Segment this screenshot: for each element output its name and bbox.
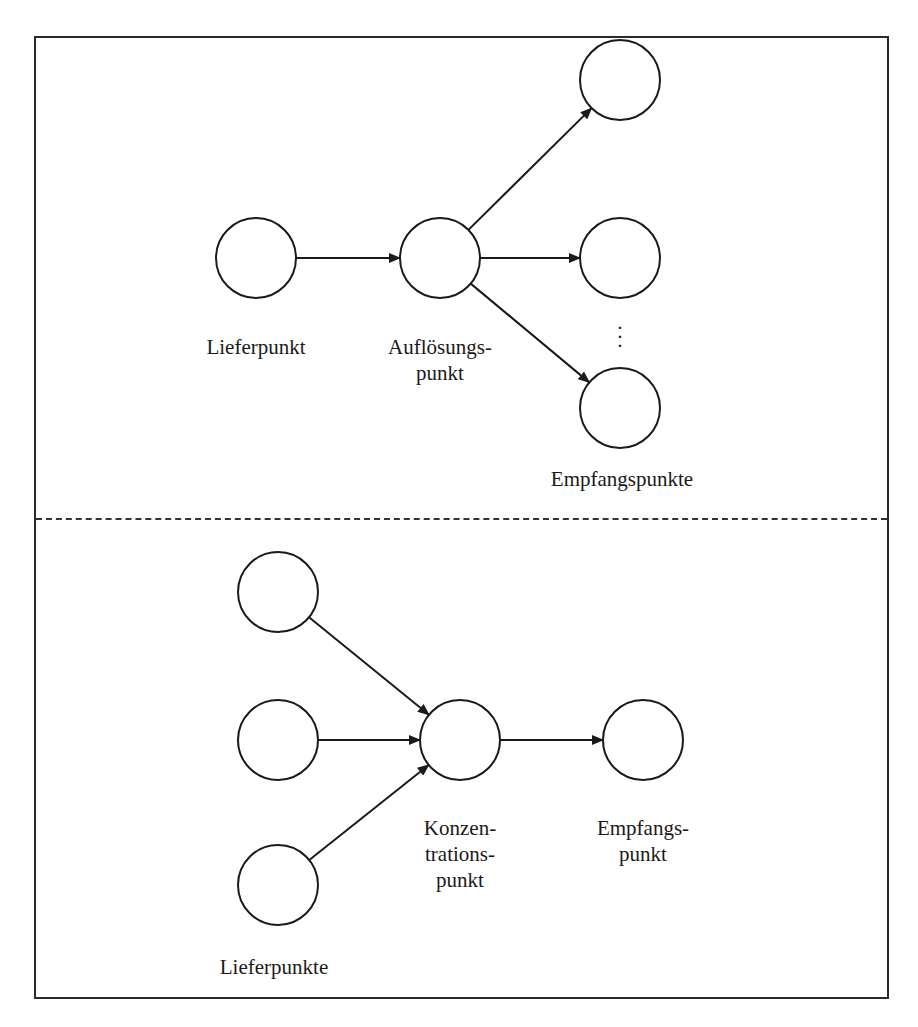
top-section-nodes — [216, 40, 660, 448]
node-lieferpunkt-2 — [238, 700, 318, 780]
node-lieferpunkt-1 — [238, 552, 318, 632]
label-text-line2: trations- — [424, 841, 496, 867]
edge-arrow-lieferpunkt-1-to-konzentrationspunkt — [309, 617, 429, 715]
node-empfangspunkt-2 — [580, 218, 660, 298]
label-lieferpunkte: Lieferpunkte — [220, 954, 328, 980]
label-text: Lieferpunkt — [206, 334, 305, 360]
node-aufloesungspunkt — [400, 218, 480, 298]
label-text: Lieferpunkte — [220, 954, 328, 980]
node-empfangspunkt-n — [580, 368, 660, 448]
label-text-line2: punkt — [597, 841, 689, 867]
node-empfangspunkt-1 — [580, 40, 660, 120]
node-lieferpunkt — [216, 218, 296, 298]
edge-arrow-aufloesungspunkt-to-empfangspunkt-1 — [468, 108, 591, 230]
label-aufloesungspunkt: Auflösungs- punkt — [388, 334, 492, 386]
label-text-line3: punkt — [424, 867, 496, 893]
diagram-canvas: Lieferpunkt Auflösungs- punkt · · · Empf… — [0, 0, 918, 1027]
label-text-line1: Konzen- — [424, 815, 496, 841]
label-konzentrationspunkt: Konzen- trations- punkt — [424, 815, 496, 893]
label-lieferpunkt: Lieferpunkt — [206, 334, 305, 360]
node-konzentrationspunkt — [420, 700, 500, 780]
node-lieferpunkt-3 — [238, 845, 318, 925]
label-text: Empfangspunkte — [551, 466, 693, 492]
label-text-line2: punkt — [388, 360, 492, 386]
node-empfangspunkt — [603, 700, 683, 780]
label-text-line1: Auflösungs- — [388, 334, 492, 360]
label-empfangspunkt: Empfangs- punkt — [597, 815, 689, 867]
edge-arrow-lieferpunkt-3-to-konzentrationspunkt — [309, 765, 428, 860]
label-empfangspunkte: Empfangspunkte — [551, 466, 693, 492]
ellipsis-more-receivers: · · · — [616, 323, 623, 350]
label-text-line1: Empfangs- — [597, 815, 689, 841]
